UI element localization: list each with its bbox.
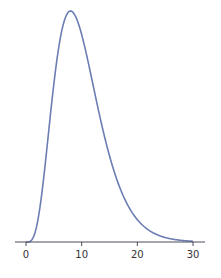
x-tick-label: 10	[75, 249, 88, 260]
density-curve	[26, 11, 193, 242]
x-tick-label: 20	[131, 249, 144, 260]
x-tick-label: 30	[187, 249, 200, 260]
x-axis-ticks: 0102030	[23, 242, 200, 260]
density-chart: 0102030	[0, 0, 221, 278]
x-tick-label: 0	[23, 249, 29, 260]
